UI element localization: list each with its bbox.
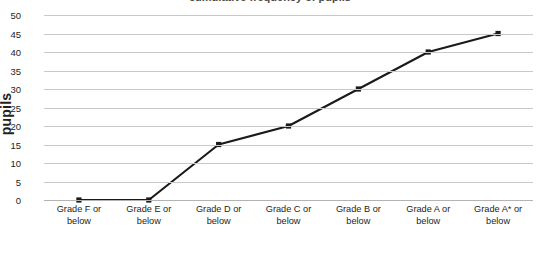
gridline <box>44 182 533 183</box>
gridline <box>44 163 533 164</box>
x-axis-category-label: Grade A* orbelow <box>463 203 533 243</box>
y-tick-label: 40 <box>0 48 21 58</box>
y-tick-label: 50 <box>0 11 21 21</box>
y-tick-label: 45 <box>0 30 21 40</box>
gridline <box>44 108 533 109</box>
x-axis-category-label-line1: Grade C or <box>255 203 323 215</box>
x-axis-category-label-line1: Grade E or <box>115 203 183 215</box>
x-axis-category-label-line2: below <box>185 215 253 227</box>
gridline <box>44 52 533 53</box>
gridline <box>44 126 533 127</box>
y-tick-label: 20 <box>0 122 21 132</box>
gridline <box>44 34 533 35</box>
y-tick-label: 15 <box>0 141 21 151</box>
x-axis-category-label-line2: below <box>324 215 392 227</box>
y-tick-label: 30 <box>0 85 21 95</box>
gridline <box>44 71 533 72</box>
x-axis-category-label-line2: below <box>115 215 183 227</box>
x-axis-category-label-line2: below <box>464 215 532 227</box>
x-axis-category-label: Grade F orbelow <box>44 203 114 243</box>
series-markers <box>76 31 500 203</box>
x-axis-category-label-line1: Grade F or <box>45 203 113 215</box>
cumulative-frequency-chart: cumulative frequency of pupils pupils 50… <box>0 0 540 257</box>
gridline <box>44 15 533 16</box>
gridline <box>44 145 533 146</box>
x-axis-category-label-line1: Grade A* or <box>464 203 532 215</box>
x-axis-category-label: Grade A orbelow <box>393 203 463 243</box>
y-tick-label: 35 <box>0 67 21 77</box>
x-axis-category-label-line1: Grade D or <box>185 203 253 215</box>
y-tick-label: 0 <box>0 196 21 206</box>
x-axis-category-label-line2: below <box>45 215 113 227</box>
gridline <box>44 200 533 201</box>
x-axis-category-label-line2: below <box>255 215 323 227</box>
plot-area: 50454035302520151050 <box>44 15 533 200</box>
x-axis-category-label-line2: below <box>394 215 462 227</box>
chart-title-cutoff: cumulative frequency of pupils <box>0 0 540 3</box>
y-tick-label: 25 <box>0 104 21 114</box>
y-tick-label: 10 <box>0 159 21 169</box>
series-line-pupils <box>79 34 498 201</box>
x-axis-category-label: Grade E orbelow <box>114 203 184 243</box>
x-axis-category-label: Grade B orbelow <box>323 203 393 243</box>
x-axis-category-label: Grade D orbelow <box>184 203 254 243</box>
y-tick-label: 5 <box>0 178 21 188</box>
x-axis-category-label-line1: Grade A or <box>394 203 462 215</box>
x-axis-labels: Grade F orbelowGrade E orbelowGrade D or… <box>44 203 533 243</box>
x-axis-category-label: Grade C orbelow <box>254 203 324 243</box>
x-axis-category-label-line1: Grade B or <box>324 203 392 215</box>
gridline <box>44 89 533 90</box>
